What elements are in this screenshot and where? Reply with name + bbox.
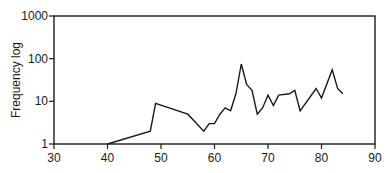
x-tick-label: 50 [154,151,168,165]
y-tick-label: 1000 [21,9,48,23]
x-tick-label: 60 [208,151,222,165]
x-tick-label: 90 [368,151,382,165]
x-tick-label: 30 [47,151,61,165]
y-axis-label: Frequency log [9,42,23,118]
y-tick-label: 1 [41,137,48,151]
frequency-log-line-chart: 30405060708090 1101001000 Frequency log [0,0,388,173]
x-tick-label: 80 [315,151,329,165]
x-tick-label: 40 [101,151,115,165]
y-axis: 1101001000 [21,9,54,151]
y-tick-label: 100 [28,52,48,66]
plot-frame [54,16,375,144]
x-axis: 30405060708090 [47,144,382,165]
x-tick-label: 70 [261,151,275,165]
y-tick-label: 10 [35,94,49,108]
data-series-line [108,64,343,144]
